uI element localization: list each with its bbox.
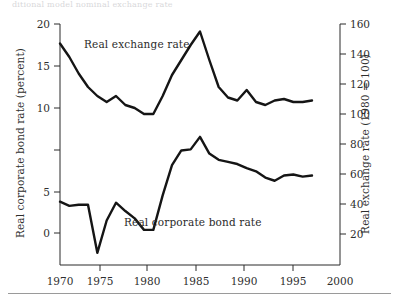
svg-text:2000: 2000 bbox=[327, 275, 354, 287]
left-axis-tick-labels: 20 15 10 5 0 bbox=[37, 18, 50, 239]
series-label-real-corporate-bond-rate: Real corporate bond rate bbox=[124, 216, 262, 228]
svg-text:20: 20 bbox=[37, 18, 50, 30]
svg-text:1990: 1990 bbox=[231, 275, 258, 287]
svg-text:1975: 1975 bbox=[87, 275, 114, 287]
svg-text:1980: 1980 bbox=[134, 275, 161, 287]
left-axis-title: Real corporate bond rate (percent) bbox=[14, 50, 26, 238]
svg-text:5: 5 bbox=[43, 186, 50, 198]
svg-text:160: 160 bbox=[350, 18, 370, 30]
right-axis-title: Real exchange rate (1980 = 100) bbox=[359, 50, 371, 238]
svg-text:15: 15 bbox=[37, 60, 50, 72]
x-axis-tick-labels: 1970 1975 1980 1985 1990 1995 2000 bbox=[47, 275, 354, 287]
right-axis-ticks bbox=[340, 24, 346, 234]
svg-text:10: 10 bbox=[37, 102, 50, 114]
series-line-real-corporate-bond-rate bbox=[60, 137, 312, 253]
series-label-real-exchange-rate: Real exchange rate bbox=[84, 38, 190, 50]
svg-text:1970: 1970 bbox=[47, 275, 74, 287]
dual-axis-line-chart: 20 15 10 5 0 160 140 120 100 80 60 40 20 bbox=[0, 0, 399, 302]
chart-figure: ditional model nominal exchange rate 20 … bbox=[0, 0, 399, 302]
svg-text:1995: 1995 bbox=[280, 275, 307, 287]
svg-text:0: 0 bbox=[43, 227, 50, 239]
x-axis-ticks bbox=[100, 265, 293, 271]
page-divider-rule bbox=[8, 293, 391, 294]
svg-text:1985: 1985 bbox=[183, 275, 210, 287]
